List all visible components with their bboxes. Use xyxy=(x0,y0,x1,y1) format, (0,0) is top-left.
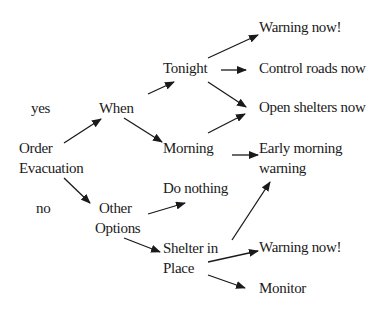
label-no: no xyxy=(36,198,50,218)
node-monitor: Monitor xyxy=(259,278,306,298)
node-tonight: Tonight xyxy=(163,58,207,78)
arrow-tonight-to-warning-now xyxy=(208,35,258,58)
node-early-morning-warning-line2: warning xyxy=(259,158,306,178)
node-morning: Morning xyxy=(163,138,213,158)
node-control-roads-now: Control roads now xyxy=(259,58,366,78)
node-early-morning-warning-line1: Early morning xyxy=(259,138,342,158)
node-shelter-in-place-line2: Place xyxy=(163,258,194,278)
node-shelter-in-place-line1: Shelter in xyxy=(163,238,218,258)
arrow-other-to-do-nothing xyxy=(148,203,185,214)
node-warning-now-2: Warning now! xyxy=(259,237,341,257)
node-other-options-line2: Options xyxy=(95,218,140,238)
arrow-other-to-shelter xyxy=(124,238,160,252)
node-order-evacuation-line1: Order xyxy=(19,138,52,158)
arrow-when-to-tonight xyxy=(148,82,174,94)
arrow-shelter-to-early-warning xyxy=(232,182,270,240)
label-yes: yes xyxy=(31,98,50,118)
arrow-when-to-morning xyxy=(124,118,162,142)
node-open-shelters-now: Open shelters now xyxy=(259,97,366,117)
arrow-morning-to-open-shelters xyxy=(208,114,245,133)
node-order-evacuation-line2: Evacuation xyxy=(19,158,83,178)
arrow-order-to-when xyxy=(64,119,101,143)
node-warning-now-1: Warning now! xyxy=(259,17,341,37)
node-do-nothing: Do nothing xyxy=(163,178,228,198)
node-other-options-line1: Other xyxy=(99,198,132,218)
arrow-shelter-to-monitor xyxy=(208,275,245,288)
arrow-tonight-to-open-shelters xyxy=(208,82,246,107)
node-when: When xyxy=(99,98,134,118)
decision-tree-diagram: yes no Order Evacuation When Other Optio… xyxy=(0,0,390,311)
arrow-evacuation-to-other-options xyxy=(64,178,90,203)
